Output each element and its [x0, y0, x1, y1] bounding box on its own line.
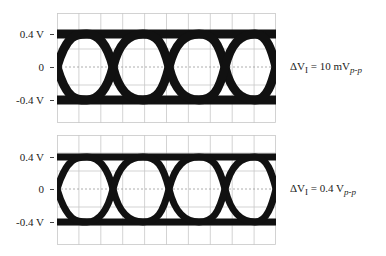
- value-label: = 10 mV: [308, 60, 350, 72]
- annotation-bottom: ΔVI = 0.4 Vp-p: [290, 182, 356, 197]
- ytick-mid: 0: [0, 183, 44, 195]
- eye-diagram-panel-top: 0.4 V 0 -0.4 V ΔVI = 10 mVp-p: [0, 0, 386, 128]
- ytick-top: 0.4 V: [0, 151, 44, 163]
- pp-subscript: p-p: [344, 187, 356, 197]
- ytick-bot: -0.4 V: [0, 216, 44, 228]
- pp-subscript: p-p: [350, 65, 362, 75]
- ytick-mid: 0: [0, 61, 44, 73]
- ytick-bot: -0.4 V: [0, 94, 44, 106]
- tick-mark: [50, 222, 54, 223]
- annotation-top: ΔVI = 10 mVp-p: [290, 60, 362, 75]
- eye-diagram-panel-bottom: 0.4 V 0 -0.4 V ΔVI = 0.4 Vp-p: [0, 122, 386, 250]
- tick-mark: [50, 157, 54, 158]
- delta-v-label: ΔV: [290, 182, 305, 194]
- tick-mark: [50, 34, 54, 35]
- eye-plot-top: [57, 13, 276, 123]
- eye-plot-bottom: [57, 135, 276, 245]
- value-label: = 0.4 V: [308, 182, 344, 194]
- ytick-top: 0.4 V: [0, 28, 44, 40]
- tick-mark: [50, 100, 54, 101]
- tick-mark: [50, 67, 54, 68]
- tick-mark: [50, 189, 54, 190]
- delta-v-label: ΔV: [290, 60, 305, 72]
